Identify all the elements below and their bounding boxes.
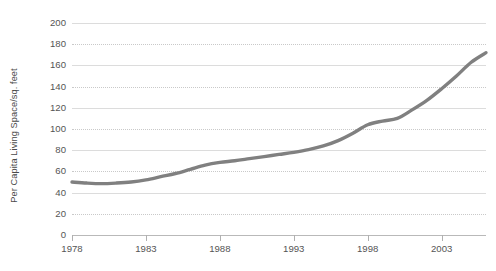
x-tick-1993 (294, 235, 295, 241)
x-tick-label-1998: 1998 (357, 244, 378, 254)
x-tick-1998 (368, 235, 369, 241)
x-tick-2003 (442, 235, 443, 241)
x-tick-label-1978: 1978 (61, 244, 82, 254)
x-tick-label-2003: 2003 (431, 244, 452, 254)
x-tick-1983 (146, 235, 147, 241)
series-path-per-capita-living-space (72, 53, 486, 184)
x-tick-1978 (72, 235, 73, 241)
data-series-line (0, 0, 496, 271)
chart-container: Per Capita Living Space/sq. feet 0204060… (0, 0, 496, 271)
x-tick-label-1983: 1983 (135, 244, 156, 254)
x-tick-label-1988: 1988 (209, 244, 230, 254)
x-tick-label-1993: 1993 (283, 244, 304, 254)
x-tick-1988 (220, 235, 221, 241)
